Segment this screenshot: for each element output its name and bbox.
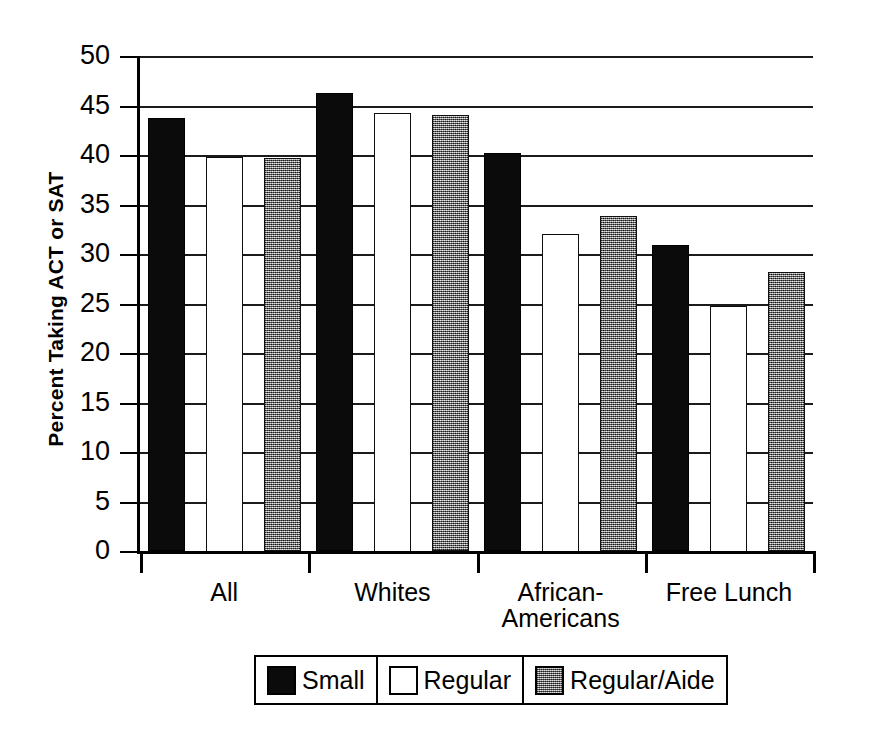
y-tick-40 (120, 155, 140, 157)
y-tick-label: 40 (44, 141, 110, 168)
bar-small-3 (652, 245, 689, 551)
legend-label: Regular (424, 668, 512, 693)
y-tick-35 (120, 205, 140, 207)
legend-entry-small[interactable]: Small (256, 657, 378, 703)
y-tick-label: 5 (44, 488, 110, 515)
bar-small-0 (148, 118, 185, 551)
bar-regular-1 (374, 113, 411, 551)
bar-small-2 (484, 153, 521, 551)
y-tick-label: 10 (44, 438, 110, 465)
bar-aide-1 (432, 115, 469, 551)
y-tick-15 (120, 403, 140, 405)
chart-legend: SmallRegularRegular/Aide (254, 655, 728, 705)
gridline-50 (140, 56, 813, 58)
bar-aide-0 (264, 158, 301, 551)
bar-small-1 (316, 93, 353, 551)
x-axis-label-line: Americans (456, 606, 666, 632)
plot-area: 05101520253035404550 AllWhitesAfrican-Am… (137, 56, 813, 554)
x-tick-end (813, 551, 816, 573)
legend-entry-regular[interactable]: Regular (378, 657, 525, 703)
x-tick-2 (477, 551, 480, 573)
y-tick-label: 35 (44, 191, 110, 218)
x-tick-3 (645, 551, 648, 573)
x-tick-0 (140, 551, 143, 573)
y-tick-label: 30 (44, 240, 110, 267)
legend-label: Regular/Aide (570, 668, 715, 693)
x-tick-1 (308, 551, 311, 573)
y-tick-45 (120, 106, 140, 108)
y-tick-5 (120, 502, 140, 504)
y-tick-label: 20 (44, 339, 110, 366)
y-tick-label: 25 (44, 290, 110, 317)
chart-figure: Percent Taking ACT or SAT 05101520253035… (0, 0, 890, 751)
y-tick-0 (120, 551, 140, 553)
x-axis-label-line: Free Lunch (624, 580, 834, 606)
white-outline-swatch (389, 666, 418, 695)
y-tick-50 (120, 56, 140, 58)
y-tick-label: 45 (44, 92, 110, 119)
bar-regular-0 (206, 157, 243, 551)
bar-regular-2 (542, 234, 579, 551)
bar-regular-3 (710, 306, 747, 551)
y-tick-label: 50 (44, 42, 110, 69)
x-axis-label-3: Free Lunch (624, 580, 834, 606)
y-tick-20 (120, 353, 140, 355)
bar-aide-2 (600, 216, 637, 551)
y-tick-30 (120, 254, 140, 256)
hatched-gray-swatch (535, 666, 564, 695)
legend-label: Small (302, 668, 365, 693)
gridline-45 (140, 106, 813, 108)
legend-entry-aide[interactable]: Regular/Aide (524, 657, 726, 703)
y-tick-10 (120, 452, 140, 454)
y-tick-label: 15 (44, 389, 110, 416)
solid-black-swatch (267, 666, 296, 695)
bar-aide-3 (768, 272, 805, 551)
y-tick-25 (120, 304, 140, 306)
y-tick-label: 0 (44, 537, 110, 564)
